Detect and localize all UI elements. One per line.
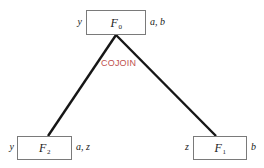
root-right-annotation: a, b xyxy=(150,17,165,27)
left-child-right-annotation: a, z xyxy=(76,142,90,152)
right-child-right-annotation: b xyxy=(251,142,256,152)
node-right-child-label: F1 xyxy=(215,142,226,154)
cojoin-edge-label: COJOIN xyxy=(101,59,136,68)
node-root-label: F0 xyxy=(111,17,122,29)
node-root-f0[interactable]: F0 xyxy=(86,10,146,35)
node-left-child-f2[interactable]: F2 xyxy=(17,136,72,160)
node-left-child-subscript: 2 xyxy=(47,148,51,156)
right-child-left-annotation: z xyxy=(178,142,189,152)
left-child-left-annotation: y xyxy=(2,142,14,152)
node-root-subscript: 0 xyxy=(118,23,122,31)
node-root-name: F xyxy=(111,16,118,30)
node-left-child-label: F2 xyxy=(39,142,50,154)
edge-root-to-left-child xyxy=(48,35,116,136)
edge-root-to-right-child xyxy=(116,35,216,136)
node-right-child-name: F xyxy=(215,141,222,155)
node-left-child-name: F xyxy=(39,141,46,155)
node-right-child-f1[interactable]: F1 xyxy=(193,136,247,160)
root-left-annotation: y xyxy=(68,17,82,27)
cojoin-diagram: y F0 a, b COJOIN y F2 a, z z F1 b xyxy=(0,0,264,168)
node-right-child-subscript: 1 xyxy=(222,148,226,156)
